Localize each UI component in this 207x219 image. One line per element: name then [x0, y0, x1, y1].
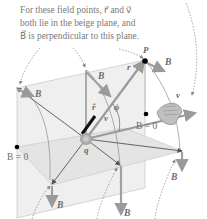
label-B-bottom-mid: B⃗: [123, 208, 138, 218]
label-b-zero-left: B = 0: [7, 152, 28, 162]
label-B-top-mid: B⃗: [97, 71, 112, 81]
label-B-left: B⃗: [34, 89, 49, 99]
label-B-bottom-right: B⃗: [170, 172, 185, 182]
magnetic-field-diagram: For these field points, r⃗ and v⃗ both l…: [0, 0, 207, 219]
charge-q: [80, 133, 92, 145]
b-zero-point-right: [144, 112, 149, 117]
label-phi: ϕ: [114, 102, 119, 112]
label-B-bottom-left: B⃗: [56, 200, 71, 210]
point-P: [142, 58, 148, 64]
label-r: r⃗: [127, 62, 138, 72]
label-q: q: [84, 145, 89, 155]
label-B-at-P: B⃗: [164, 57, 179, 67]
label-v-charge: v⃗: [104, 113, 115, 123]
label-b-zero-right: B = 0: [136, 121, 157, 131]
label-P: P: [143, 45, 149, 55]
b-zero-point-left: [15, 145, 20, 150]
diagram-canvas: P q r⃗ r̂ v⃗ v⃗ ϕ B = 0 B = 0 B⃗ B⃗ B⃗ B…: [0, 0, 207, 219]
label-v-hand: v⃗: [176, 90, 187, 100]
